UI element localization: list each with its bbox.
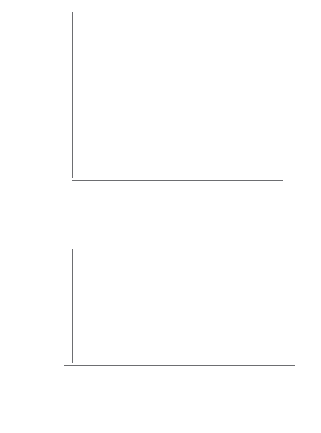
residuals-plot-area — [0, 215, 321, 433]
chart-residuals-vs-predicted — [0, 215, 321, 433]
chart-age-gap-vs-year — [0, 0, 321, 220]
age-gap-plot-area — [0, 0, 321, 220]
